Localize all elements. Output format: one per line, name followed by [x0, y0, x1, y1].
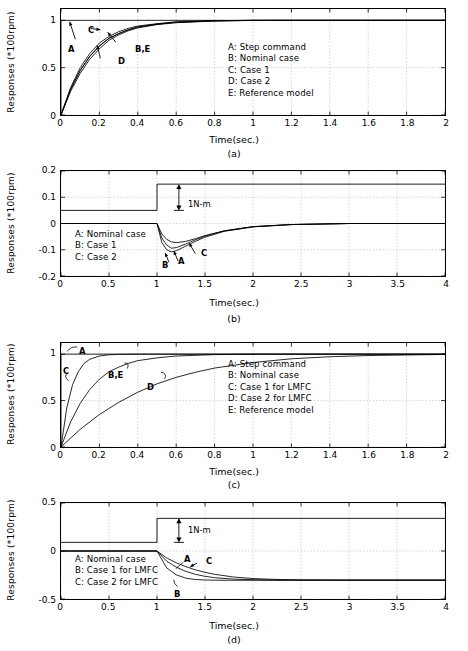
y-tick-label: 0.5 [0, 396, 56, 406]
x-tick-label: 0 [57, 602, 63, 612]
legend-d: A: Nominal case B: Case 1 for LMFC C: Ca… [75, 554, 158, 588]
y-tick-label: -0.1 [0, 245, 56, 255]
legend-item: A: Nominal case [75, 554, 158, 565]
legend-item: A: Step command [228, 42, 314, 53]
x-tick-label: 0.4 [130, 118, 144, 128]
y-tick-label: 0 [0, 443, 56, 453]
x-tick-label: 0.5 [101, 279, 115, 289]
curve-label-d-A: A [184, 554, 190, 564]
x-tick-label: 2 [443, 118, 449, 128]
legend-item: C: Case 1 for LMFC [228, 382, 314, 393]
curve-label-a-D: D [118, 56, 125, 66]
y-tick-label: 0 [0, 219, 56, 229]
caption-a: (a) [0, 148, 468, 159]
x-tick-label: 1.2 [284, 118, 298, 128]
x-tick-label: 1 [154, 279, 160, 289]
legend-item: C: Case 1 [228, 65, 314, 76]
x-tick-label: 0.4 [130, 450, 144, 460]
curve-label-a-C: C [88, 25, 94, 35]
x-tick-label: 2.5 [294, 279, 308, 289]
panel-a: Responses (*100rpm) A: Step command B: N… [0, 0, 468, 160]
x-tick-label: 2 [250, 602, 256, 612]
x-tick-label: 1.5 [198, 279, 212, 289]
x-tick-label: 0.8 [207, 118, 221, 128]
x-tick-label: 0.2 [91, 450, 105, 460]
panel-c: Responses (*100rpm) A: Step command B: N… [0, 330, 468, 493]
legend-a: A: Step command B: Nominal case C: Case … [228, 42, 314, 99]
curve-label-d-B: B [174, 589, 180, 599]
legend-item: E: Reference model [228, 405, 314, 416]
x-tick-label: 2.5 [294, 602, 308, 612]
x-axis-title-b: Time(sec.) [0, 297, 468, 308]
legend-b: A: Nominal case B: Case 1 C: Case 2 [75, 229, 146, 263]
curve-label-a-BE: B,E [135, 44, 150, 54]
figure-root: Responses (*100rpm) A: Step command B: N… [0, 0, 468, 651]
x-tick-label: 1.2 [284, 450, 298, 460]
x-tick-label: 0 [57, 279, 63, 289]
y-tick-label: 0.2 [0, 165, 56, 175]
x-tick-label: 0.5 [101, 602, 115, 612]
y-tick-label: 0.5 [0, 497, 56, 507]
x-tick-label: 1.4 [323, 118, 337, 128]
curve-label-c-D: D [147, 382, 154, 392]
curve-label-c-C: C [63, 366, 69, 376]
legend-item: A: Step command [228, 359, 314, 370]
legend-item: B: Case 1 [75, 240, 146, 251]
curve-label-c-A: A [79, 346, 85, 356]
y-tick-label: 0.5 [0, 63, 56, 73]
curve-label-a-A: A [68, 44, 74, 54]
curve-label-b-B: B [162, 260, 168, 270]
legend-item: D: Case 2 [228, 76, 314, 87]
curve-label-b-C: C [201, 248, 207, 258]
y-tick-label: -0.2 [0, 272, 56, 282]
y-tick-label: -0.5 [0, 595, 56, 605]
x-tick-label: 3.5 [391, 602, 405, 612]
x-tick-label: 0.6 [169, 450, 183, 460]
caption-b: (b) [0, 313, 468, 324]
x-tick-label: 0 [57, 118, 63, 128]
curve-label-d-C: C [206, 556, 212, 566]
legend-item: D: Case 2 for LMFC [228, 393, 314, 404]
panel-d: Responses (*100rpm) A: Nominal case B: C… [0, 492, 468, 651]
torque-label-d: 1N-m [188, 525, 211, 535]
x-tick-label: 0.8 [207, 450, 221, 460]
x-tick-label: 3 [347, 279, 353, 289]
curve-label-c-BE: B,E [108, 370, 123, 380]
x-axis-title-a: Time(sec.) [0, 134, 468, 145]
legend-item: A: Nominal case [75, 229, 146, 240]
x-tick-label: 2 [443, 450, 449, 460]
y-tick-label: 1 [0, 15, 56, 25]
torque-label-b: 1N-m [188, 199, 211, 209]
x-tick-label: 2 [250, 279, 256, 289]
panel-b: Responses (*100rpm) A: Nominal case B: C… [0, 163, 468, 328]
x-tick-label: 4 [443, 279, 449, 289]
x-tick-label: 1.8 [400, 450, 414, 460]
y-tick-label: 1 [0, 348, 56, 358]
y-tick-label: 0 [0, 111, 56, 121]
x-axis-title-d: Time(sec.) [0, 620, 468, 631]
legend-item: B: Case 1 for LMFC [75, 565, 158, 576]
x-tick-label: 1.6 [362, 450, 376, 460]
x-tick-label: 0.6 [169, 118, 183, 128]
x-tick-label: 0 [57, 450, 63, 460]
x-tick-label: 4 [443, 602, 449, 612]
x-axis-title-c: Time(sec.) [0, 466, 468, 477]
x-tick-label: 1 [250, 450, 256, 460]
x-tick-label: 1.8 [400, 118, 414, 128]
y-tick-label: 0 [0, 546, 56, 556]
legend-item: E: Reference model [228, 88, 314, 99]
legend-item: C: Case 2 [75, 252, 146, 263]
x-tick-label: 3.5 [391, 279, 405, 289]
legend-item: C: Case 2 for LMFC [75, 577, 158, 588]
x-tick-label: 1 [154, 602, 160, 612]
curve-label-b-A: A [178, 256, 184, 266]
legend-item: B: Nominal case [228, 370, 314, 381]
y-tick-label: 0.1 [0, 192, 56, 202]
x-tick-label: 1.4 [323, 450, 337, 460]
caption-d: (d) [0, 634, 468, 645]
x-tick-label: 1.6 [362, 118, 376, 128]
x-tick-label: 3 [347, 602, 353, 612]
legend-item: B: Nominal case [228, 53, 314, 64]
x-tick-label: 1.5 [198, 602, 212, 612]
x-tick-label: 1 [250, 118, 256, 128]
